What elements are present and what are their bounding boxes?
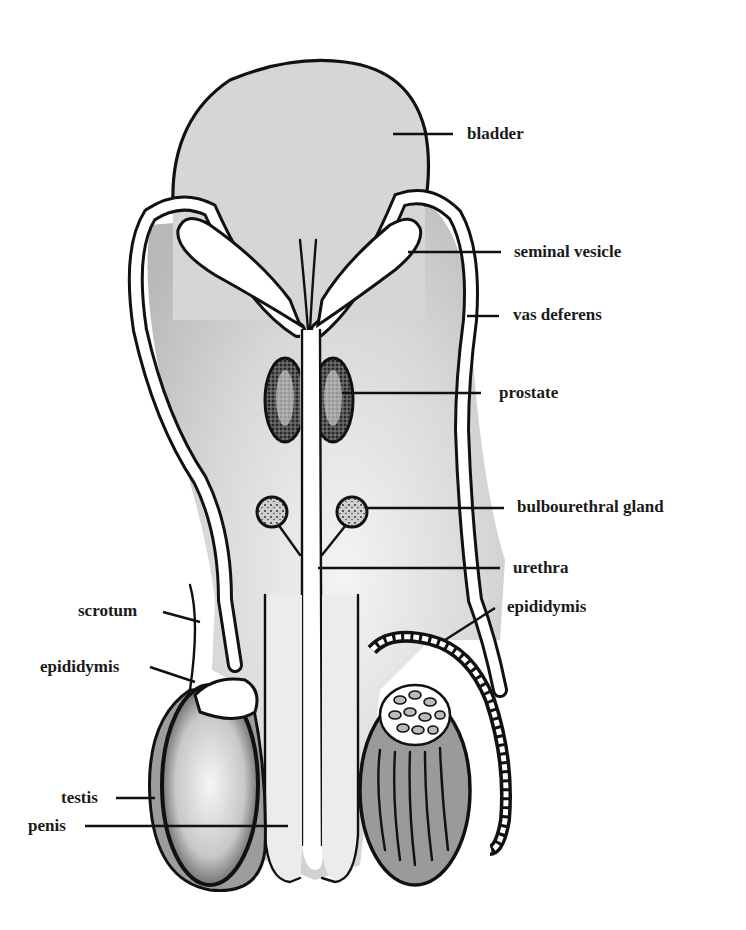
label-prostate: prostate bbox=[499, 383, 558, 403]
label-epididymis-left: epididymis bbox=[40, 657, 119, 677]
label-scrotum: scrotum bbox=[78, 601, 137, 621]
label-urethra: urethra bbox=[513, 558, 568, 578]
label-epididymis-right: epididymis bbox=[507, 597, 586, 617]
label-penis: penis bbox=[28, 816, 66, 836]
bladder-shape bbox=[173, 60, 429, 320]
label-bulbourethral-gland: bulbourethral gland bbox=[517, 497, 664, 517]
label-bladder: bladder bbox=[467, 124, 524, 144]
label-testis: testis bbox=[61, 788, 98, 808]
label-vas-deferens: vas deferens bbox=[513, 305, 602, 325]
label-seminal-vesicle: seminal vesicle bbox=[514, 242, 621, 262]
urethra-shape bbox=[300, 330, 323, 870]
reproductive-anatomy-diagram bbox=[0, 0, 746, 930]
